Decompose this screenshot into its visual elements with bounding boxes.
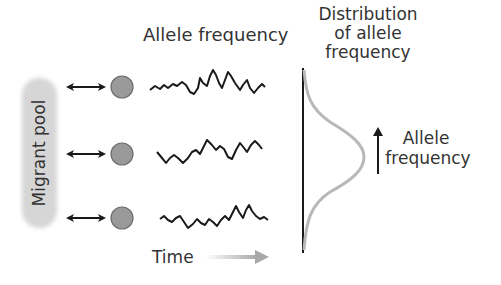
population-1-circle-icon bbox=[111, 76, 133, 98]
diagram-graphics bbox=[0, 0, 501, 285]
allele-trajectory-2 bbox=[157, 140, 262, 163]
population-3-circle-icon bbox=[111, 207, 133, 229]
population-2-circle-icon bbox=[111, 143, 133, 165]
frequency-up-arrow-icon bbox=[373, 127, 383, 174]
distribution-bell-curve bbox=[304, 70, 364, 250]
time-arrow-icon bbox=[205, 250, 269, 264]
diagram-canvas: Migrant pool Allele frequency Distributi… bbox=[0, 0, 501, 285]
allele-trajectory-3 bbox=[160, 205, 268, 228]
allele-trajectory-1 bbox=[150, 70, 265, 94]
